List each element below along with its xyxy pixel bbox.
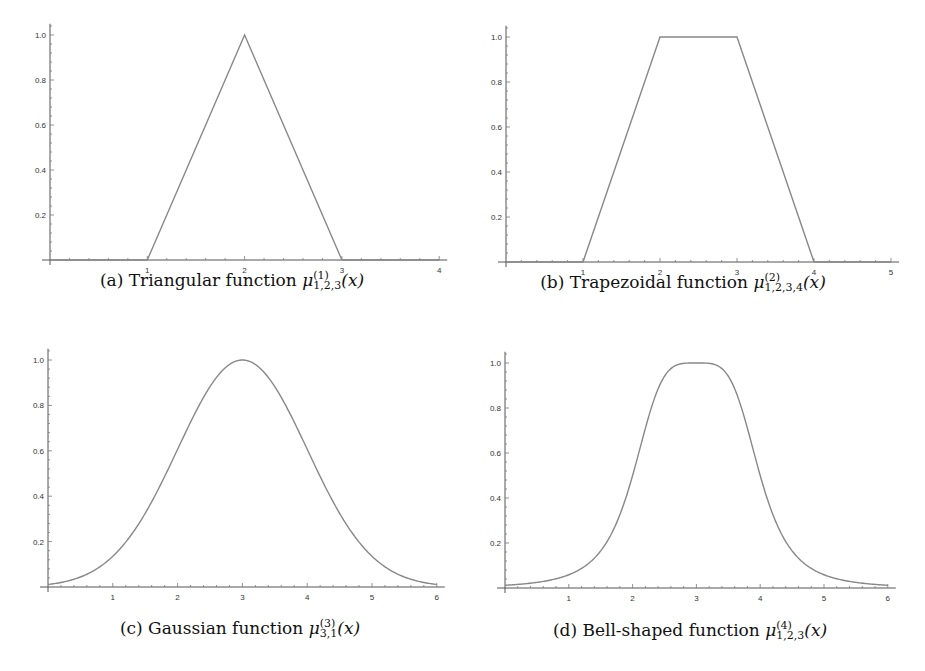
y-tick-label: 1.0 — [33, 356, 45, 365]
caption-d: (d) Bell-shaped function μ(4)1,2,3(x) — [553, 620, 827, 642]
y-tick-label: 0.2 — [33, 538, 45, 547]
figure-canvas: 12340.20.40.60.81.0123450.20.40.60.81.01… — [0, 0, 925, 671]
x-tick-label: 5 — [889, 268, 894, 277]
y-tick-label: 0.8 — [33, 401, 45, 410]
y-tick-label: 0.2 — [491, 213, 503, 222]
plot-a: 12340.20.40.60.81.0 — [35, 24, 447, 275]
y-tick-label: 0.6 — [33, 447, 45, 456]
caption-b: (b) Trapezoidal function μ(2)1,2,3,4(x) — [540, 272, 826, 294]
x-tick-label: 5 — [370, 593, 375, 602]
caption-c: (c) Gaussian function μ(3)3,1(x) — [120, 618, 360, 640]
curve-d — [505, 363, 888, 585]
y-tick-label: 0.2 — [490, 539, 502, 548]
plot-c: 1234560.20.40.60.81.0 — [33, 349, 445, 602]
x-tick-label: 5 — [822, 594, 827, 603]
x-tick-label: 3 — [694, 594, 699, 603]
caption-a: (a) Triangular function μ(1)1,2,3(x) — [100, 270, 364, 292]
plot-d: 1234560.20.40.60.81.0 — [490, 352, 896, 603]
y-tick-label: 0.2 — [35, 211, 47, 220]
x-tick-label: 6 — [886, 594, 891, 603]
x-tick-label: 4 — [758, 594, 763, 603]
x-tick-label: 3 — [240, 593, 245, 602]
x-tick-label: 4 — [305, 593, 310, 602]
y-tick-label: 0.8 — [490, 404, 502, 413]
y-tick-label: 1.0 — [490, 359, 502, 368]
curve-a — [50, 35, 439, 260]
y-tick-label: 0.4 — [33, 492, 45, 501]
x-tick-label: 4 — [437, 266, 442, 275]
x-tick-label: 2 — [630, 594, 635, 603]
curve-b — [506, 37, 891, 262]
x-tick-label: 2 — [175, 593, 180, 602]
y-tick-label: 1.0 — [35, 31, 47, 40]
y-tick-label: 1.0 — [491, 33, 503, 42]
y-tick-label: 0.6 — [491, 123, 503, 132]
y-tick-label: 0.4 — [35, 166, 47, 175]
x-tick-label: 1 — [567, 594, 572, 603]
y-tick-label: 0.6 — [490, 449, 502, 458]
y-tick-label: 0.4 — [491, 168, 503, 177]
y-tick-label: 0.4 — [490, 494, 502, 503]
y-tick-label: 0.8 — [35, 76, 47, 85]
x-tick-label: 6 — [435, 593, 440, 602]
plot-b: 123450.20.40.60.81.0 — [491, 26, 899, 277]
curve-c — [48, 360, 437, 584]
x-tick-label: 1 — [111, 593, 116, 602]
y-tick-label: 0.8 — [491, 78, 503, 87]
y-tick-label: 0.6 — [35, 121, 47, 130]
